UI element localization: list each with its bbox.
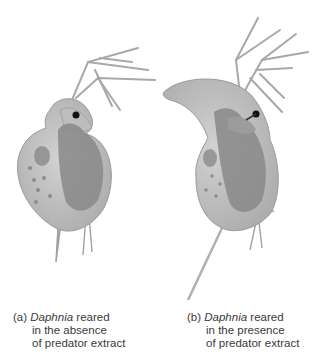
eye-icon bbox=[73, 112, 80, 119]
caption-b-label: (b) bbox=[187, 311, 201, 323]
daphnia-a-figure bbox=[18, 48, 155, 262]
caption-b-line2: in the presence bbox=[187, 324, 299, 337]
caption-a: (a) Daphnia reared in the absence of pre… bbox=[13, 311, 125, 350]
caption-a-line3: of predator extract bbox=[13, 337, 125, 350]
caption-a-genus: Daphnia bbox=[30, 311, 73, 323]
antenna-icon bbox=[72, 48, 155, 110]
daphnia-illustration bbox=[0, 0, 325, 300]
caption-b-line1: reared bbox=[247, 311, 283, 323]
caption-a-label: (a) bbox=[13, 311, 27, 323]
caption-b-line3: of predator extract bbox=[187, 337, 299, 350]
caption-a-line1: reared bbox=[73, 311, 109, 323]
caption-b-genus: Daphnia bbox=[204, 311, 247, 323]
daphnia-b-figure bbox=[163, 18, 308, 300]
caption-a-line2: in the absence bbox=[13, 324, 125, 337]
caption-b: (b) Daphnia reared in the presence of pr… bbox=[187, 311, 299, 350]
